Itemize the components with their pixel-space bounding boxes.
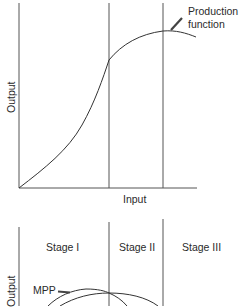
mpp-pointer <box>58 292 70 293</box>
stage-1-label: Stage I <box>46 242 79 253</box>
stage-3-label: Stage III <box>182 242 221 253</box>
production-function-label-line1: Production <box>188 6 238 17</box>
top-x-axis-label: Input <box>123 194 146 205</box>
production-function-pointer <box>171 18 182 30</box>
production-function-curve <box>19 31 196 188</box>
bottom-y-axis-label: Output <box>6 274 17 308</box>
stage-2-label: Stage II <box>119 242 155 253</box>
mpp-label: MPP <box>33 285 56 296</box>
top-chart <box>19 3 197 188</box>
top-y-axis-label: Output <box>6 80 17 114</box>
production-function-label-line2: function <box>188 19 225 30</box>
